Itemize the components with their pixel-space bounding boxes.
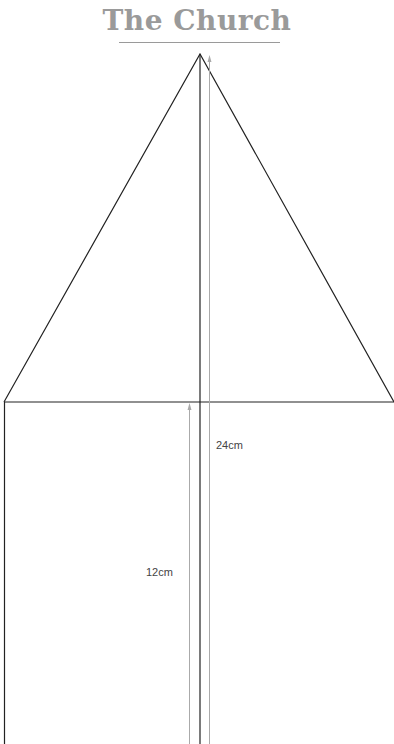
arrowhead-up-icon <box>188 403 192 410</box>
dimension-label-24cm: 24cm <box>216 439 243 451</box>
roof-triangle <box>4 54 394 402</box>
church-template-diagram <box>0 0 394 744</box>
arrowhead-up-icon <box>208 55 212 62</box>
dimension-label-12cm: 12cm <box>146 566 173 578</box>
